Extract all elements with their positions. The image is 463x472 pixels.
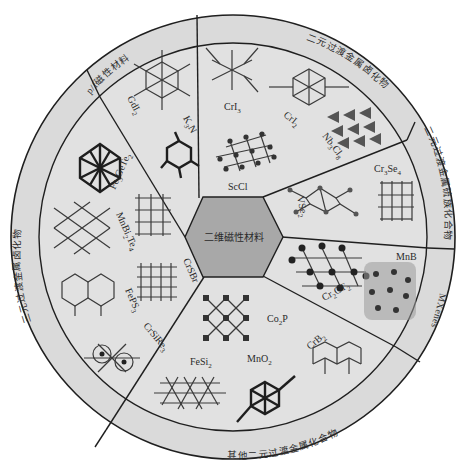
center-title: 二维磁性材料 [204,231,264,243]
label-sccl: ScCl [228,181,248,192]
structure-mnb [364,262,416,320]
label-mnb: MnB [396,251,417,262]
magnetic-materials-diagram: 二维磁性材料 p/f磁性材料 二元过渡金属卤化物 二元过渡金属硫族化合物 MXe… [0,0,463,472]
center-hexagon: 二维磁性材料 [185,197,283,277]
